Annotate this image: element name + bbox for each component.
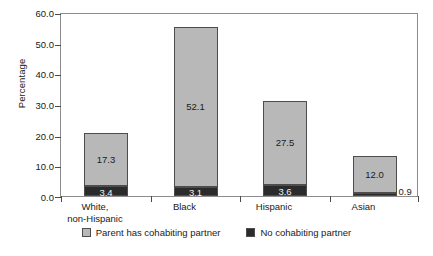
bar-label-no-partner-black: 3.1 <box>175 188 217 198</box>
bar-segment-no-partner-hispanic: 3.6 <box>263 185 307 196</box>
bar-label-cohabiting-hispanic: 27.5 <box>264 138 306 148</box>
y-tick-30 <box>55 106 61 107</box>
chart-legend: Parent has cohabiting partner No cohabit… <box>0 227 433 238</box>
y-tick-50 <box>55 45 61 46</box>
bar-label-no-partner-asian: 0.9 <box>399 187 421 197</box>
bar-segment-cohabiting-white: 17.3 <box>84 133 128 186</box>
legend-swatch-gray-icon <box>82 228 91 237</box>
bar-segment-cohabiting-hispanic: 27.5 <box>263 101 307 185</box>
legend-item-no-cohabiting-partner: No cohabiting partner <box>246 227 351 238</box>
bar-label-no-partner-white: 3.4 <box>85 188 127 198</box>
y-tick-60 <box>55 14 61 15</box>
bar-label-cohabiting-black: 52.1 <box>175 102 217 112</box>
stacked-bar-chart: Percentage 60.0 50.0 40.0 30.0 20.0 10.0… <box>0 0 433 256</box>
bar-label-cohabiting-asian: 12.0 <box>354 170 396 180</box>
y-tick-10 <box>55 167 61 168</box>
bar-segment-cohabiting-black: 52.1 <box>174 27 218 187</box>
plot-area: 17.3 3.4 52.1 3.1 27.5 <box>60 13 418 197</box>
x-category-white-line2: non-Hispanic <box>38 213 152 225</box>
legend-label-no-cohabiting-partner: No cohabiting partner <box>260 227 351 238</box>
bar-segment-cohabiting-asian: 12.0 <box>353 156 397 193</box>
bar-segment-no-partner-asian <box>353 193 397 196</box>
bar-asian: 12.0 0.9 <box>353 156 397 196</box>
bar-segment-no-partner-white: 3.4 <box>84 186 128 196</box>
y-tick-20 <box>55 137 61 138</box>
legend-swatch-dark-icon <box>246 228 255 237</box>
y-tick-label-30: 30.0 <box>8 100 54 111</box>
bar-white-non-hispanic: 17.3 3.4 <box>84 133 128 196</box>
y-tick-label-40: 40.0 <box>8 69 54 80</box>
y-tick-label-20: 20.0 <box>8 131 54 142</box>
bar-label-cohabiting-white: 17.3 <box>85 155 127 165</box>
legend-label-cohabiting-partner: Parent has cohabiting partner <box>96 227 221 238</box>
bar-label-no-partner-hispanic: 3.6 <box>264 187 306 197</box>
plot-inner: 17.3 3.4 52.1 3.1 27.5 <box>61 14 417 196</box>
y-tick-label-10: 10.0 <box>8 161 54 172</box>
x-category-asian: Asian <box>307 201 421 213</box>
y-tick-label-50: 50.0 <box>8 39 54 50</box>
bar-segment-no-partner-black: 3.1 <box>174 187 218 197</box>
bar-hispanic: 27.5 3.6 <box>263 101 307 196</box>
y-tick-label-60: 60.0 <box>8 8 54 19</box>
legend-item-cohabiting-partner: Parent has cohabiting partner <box>82 227 221 238</box>
bar-black: 52.1 3.1 <box>174 27 218 196</box>
y-tick-40 <box>55 75 61 76</box>
